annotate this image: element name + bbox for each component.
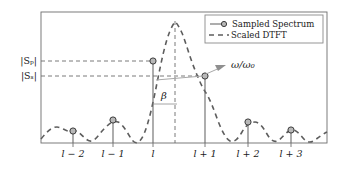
omega-axis-arrow-head bbox=[215, 65, 226, 71]
spectrum-plot: |Sₚ| |Sₛ| l − 2 l − 1 l l + 1 l + 2 l + … bbox=[0, 0, 340, 169]
x-tick-label-2: l bbox=[151, 148, 154, 159]
legend: Sampled Spectrum Scaled DTFT bbox=[205, 15, 323, 43]
marker-l-minus-1 bbox=[110, 117, 116, 123]
x-tick-label-5: l + 3 bbox=[279, 148, 302, 159]
legend-label-sampled-spectrum: Sampled Spectrum bbox=[232, 19, 314, 29]
slope-connector-line bbox=[156, 76, 203, 80]
marker-l-plus-3 bbox=[288, 127, 294, 133]
beta-label: β bbox=[160, 90, 167, 101]
marker-l-plus-2 bbox=[245, 119, 251, 125]
y-label-sp: |Sₚ| bbox=[20, 55, 37, 67]
marker-l bbox=[150, 58, 156, 64]
figure-container: |Sₚ| |Sₛ| l − 2 l − 1 l l + 1 l + 2 l + … bbox=[0, 0, 340, 169]
legend-marker-sampled-spectrum bbox=[221, 21, 226, 26]
y-label-ss: |Sₛ| bbox=[21, 70, 37, 82]
marker-l-minus-2 bbox=[70, 128, 76, 134]
x-tick-label-0: l − 2 bbox=[61, 148, 84, 159]
sampled-spectrum-stems bbox=[73, 61, 291, 143]
x-tick-label-1: l − 1 bbox=[101, 148, 124, 159]
x-axis-ticks bbox=[73, 143, 291, 147]
sampled-spectrum-markers bbox=[70, 58, 294, 134]
x-tick-label-3: l + 1 bbox=[193, 148, 216, 159]
legend-label-scaled-dtft: Scaled DTFT bbox=[231, 30, 287, 40]
x-tick-label-4: l + 2 bbox=[236, 148, 259, 159]
omega-ratio-label: ω/ω₀ bbox=[231, 59, 255, 70]
